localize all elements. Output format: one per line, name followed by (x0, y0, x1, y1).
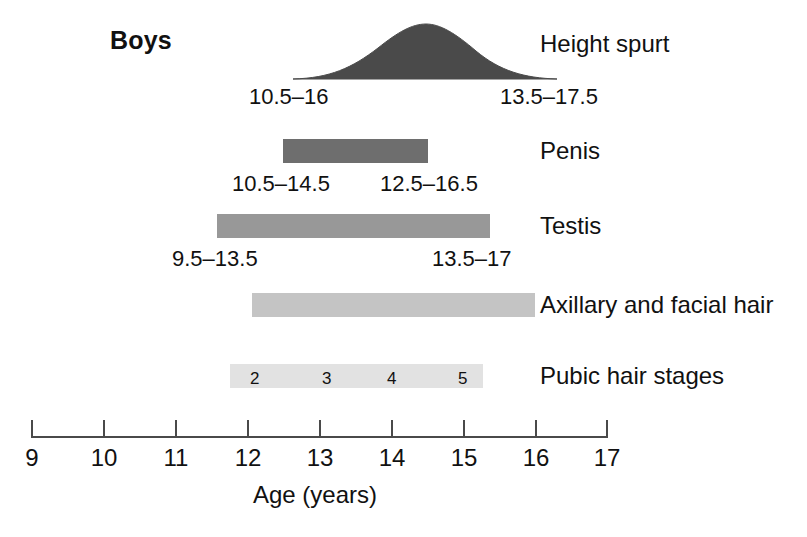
axis-label-15: 15 (439, 444, 489, 472)
axis-tick-11 (175, 420, 177, 437)
axis-tick-9 (31, 420, 33, 437)
puberty-timeline-chart: Boys Height spurt 10.5–16 13.5–17.5 Peni… (0, 0, 807, 537)
axis-label-13: 13 (295, 444, 345, 472)
age-axis: 9 10 11 12 13 14 15 16 17 Age (years) (0, 0, 807, 537)
axis-tick-12 (247, 420, 249, 437)
axis-label-9: 9 (7, 444, 57, 472)
axis-label-10: 10 (79, 444, 129, 472)
axis-tick-16 (535, 420, 537, 437)
axis-tick-17 (606, 420, 608, 437)
axis-tick-15 (463, 420, 465, 437)
axis-label-12: 12 (223, 444, 273, 472)
axis-title: Age (years) (253, 481, 377, 509)
axis-tick-10 (103, 420, 105, 437)
axis-tick-13 (319, 420, 321, 437)
axis-label-14: 14 (367, 444, 417, 472)
axis-tick-14 (391, 420, 393, 437)
axis-label-17: 17 (582, 444, 632, 472)
axis-label-16: 16 (511, 444, 561, 472)
axis-label-11: 11 (151, 444, 201, 472)
